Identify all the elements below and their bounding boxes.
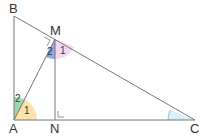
angle-A2-label: 2 [15,93,21,104]
right-angle-mark-M [44,37,50,46]
point-A-label: A [9,121,18,136]
angle-A1-label: 1 [24,105,30,116]
segment-BC [14,16,195,120]
geometry-diagram: 1 2 2 1 B M A N C [0,0,206,136]
right-angle-mark-N [58,111,64,117]
point-M-label: M [50,23,61,38]
angle-M2-label: 2 [47,46,53,57]
angle-M1-label: 1 [60,45,66,56]
angle-C-arc [168,110,195,120]
point-C-label: C [190,121,199,136]
point-N-label: N [50,121,59,136]
point-B-label: B [9,1,18,16]
